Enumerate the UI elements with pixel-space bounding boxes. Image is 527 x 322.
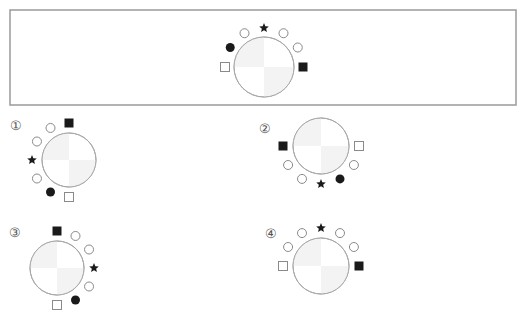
option-figure: [279, 223, 364, 294]
option-label: ③: [9, 225, 21, 240]
question-figure: [221, 23, 308, 97]
filled-circle-icon: [71, 296, 80, 305]
hollow-circle-icon: [32, 174, 41, 183]
hollow-circle-icon: [85, 245, 94, 254]
hollow-square-icon: [355, 142, 364, 151]
hollow-circle-icon: [336, 229, 345, 238]
hollow-circle-icon: [279, 29, 288, 38]
hollow-circle-icon: [240, 29, 249, 38]
filled-circle-icon: [226, 43, 235, 52]
star-icon: [27, 155, 37, 164]
option-2[interactable]: ②: [259, 118, 364, 188]
filled-square-icon: [279, 142, 288, 151]
star-icon: [89, 263, 99, 272]
puzzle-diagram: ① ② ③ ④: [0, 0, 527, 322]
option-figure: [279, 118, 364, 188]
hollow-circle-icon: [349, 243, 358, 252]
filled-square-icon: [53, 227, 62, 236]
option-3[interactable]: ③: [9, 225, 99, 310]
hollow-circle-icon: [293, 43, 302, 52]
star-icon: [316, 179, 326, 188]
filled-circle-icon: [336, 174, 345, 183]
filled-circle-icon: [46, 188, 55, 197]
hollow-circle-icon: [85, 282, 94, 291]
hollow-circle-icon: [32, 137, 41, 146]
option-figure: [27, 119, 96, 202]
filled-square-icon: [299, 63, 308, 72]
option-label: ④: [265, 226, 277, 241]
option-1[interactable]: ①: [10, 118, 96, 202]
hollow-square-icon: [53, 301, 62, 310]
hollow-square-icon: [279, 262, 288, 271]
hollow-circle-icon: [46, 123, 55, 132]
hollow-circle-icon: [349, 161, 358, 170]
filled-square-icon: [65, 119, 74, 128]
hollow-square-icon: [221, 63, 230, 72]
option-label: ②: [259, 121, 271, 136]
option-figure: [30, 227, 99, 310]
option-label: ①: [10, 118, 22, 133]
hollow-circle-icon: [284, 243, 293, 252]
star-icon: [316, 223, 326, 232]
hollow-square-icon: [65, 193, 74, 202]
star-icon: [259, 23, 269, 32]
hollow-circle-icon: [284, 161, 293, 170]
filled-square-icon: [355, 262, 364, 271]
option-4[interactable]: ④: [265, 223, 364, 294]
hollow-circle-icon: [71, 231, 80, 240]
hollow-circle-icon: [298, 174, 307, 183]
hollow-circle-icon: [298, 229, 307, 238]
